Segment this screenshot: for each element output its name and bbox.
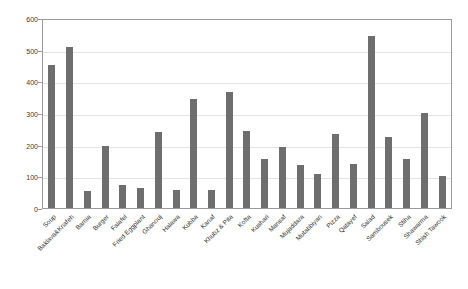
bar [84,191,91,208]
x-label-slot: Soup [43,211,61,289]
bar-slot [149,20,167,208]
bar [48,65,55,208]
bar-slot [61,20,79,208]
bar-slot [415,20,433,208]
bar [155,132,162,208]
bar-slot [167,20,185,208]
bar-slot [220,20,238,208]
y-tick-label: 300 [4,111,38,118]
x-label-slot: Salad [362,211,380,289]
bar-slot [309,20,327,208]
bar-slot [238,20,256,208]
x-label-slot: Burger [96,211,114,289]
x-label-slot: Falafel [114,211,132,289]
x-label-slot: Shish Tawook [433,211,451,289]
bar-slot [433,20,451,208]
y-tick-mark [38,114,42,115]
bar [208,190,215,208]
bar [314,174,321,208]
bar [403,159,410,208]
bar-slot [291,20,309,208]
bar-slot [43,20,61,208]
y-tick-label: 600 [4,16,38,23]
bar-slot [185,20,203,208]
y-tick-label: 0 [4,206,38,213]
bar [368,36,375,208]
bar-slot [274,20,292,208]
bar [279,147,286,208]
bar-slot [203,20,221,208]
bar [190,99,197,208]
x-label-slot: Kofta [238,211,256,289]
bar [385,137,392,208]
x-label-slot: Sambousek [380,211,398,289]
bar [297,165,304,208]
y-tick-label: 100 [4,174,38,181]
x-tick-label: Soup [41,213,57,229]
bar-slot [344,20,362,208]
bar-slot [256,20,274,208]
bar [243,131,250,208]
bar-slot [132,20,150,208]
bar-chart: 0100200300400500600 SoupBaklava&KnafehBa… [0,0,468,289]
bar-slot [380,20,398,208]
y-tick-mark [38,177,42,178]
bar [439,176,446,208]
x-label-slot: Mutabbiyan [309,211,327,289]
bar [119,185,126,209]
bar [66,47,73,208]
x-tick-label: Kofta [236,213,252,229]
bar-slot [78,20,96,208]
y-tick-mark [38,209,42,210]
bar [102,146,109,208]
bar [350,164,357,208]
y-tick-mark [38,51,42,52]
bar-slot [398,20,416,208]
bar [173,190,180,208]
bar-slot [362,20,380,208]
y-tick-mark [38,19,42,20]
bar [421,113,428,208]
y-tick-mark [38,146,42,147]
y-tick-label: 400 [4,79,38,86]
bar-slot [327,20,345,208]
bar [332,134,339,208]
y-tick-label: 500 [4,47,38,54]
y-tick-label: 200 [4,142,38,149]
bar-series [43,20,451,208]
bar [137,188,144,208]
bar-slot [96,20,114,208]
bar-slot [114,20,132,208]
y-axis: 0100200300400500600 [0,19,38,209]
x-axis-labels: SoupBaklava&KnafehBamiaBurgerFalafelFrie… [43,211,451,289]
bar [226,92,233,208]
x-label-slot: Halawa [167,211,185,289]
y-tick-mark [38,82,42,83]
bar [261,159,268,208]
